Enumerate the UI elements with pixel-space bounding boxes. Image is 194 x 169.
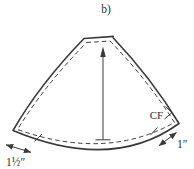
left-measurement-label: 1½″ <box>6 156 25 168</box>
figure-label: b) <box>101 3 111 16</box>
right-measurement-label: 1″ <box>177 138 188 150</box>
left-measure-double-arrow-icon <box>6 145 31 153</box>
grainline-arrow-icon <box>96 47 111 140</box>
pattern-piece-canvas: b) CF 1½″ 1″ <box>0 0 194 169</box>
pattern-diagram-figure: b) CF 1½″ 1″ <box>0 0 194 169</box>
seam-dashed-line <box>18 41 175 144</box>
cf-label: CF <box>150 109 163 121</box>
